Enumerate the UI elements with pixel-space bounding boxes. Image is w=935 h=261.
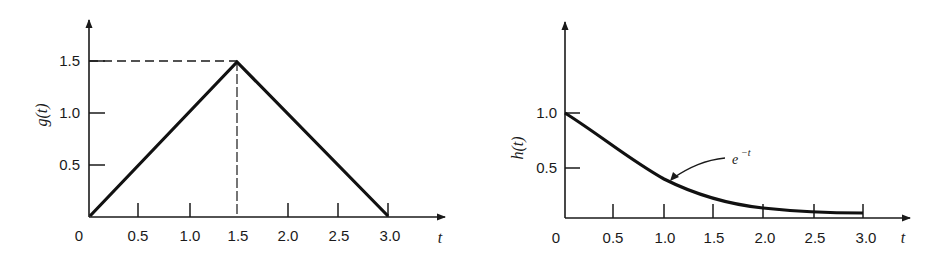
g-x-tick-label: 2.5 bbox=[329, 227, 350, 244]
h-x-tick-label: 3.0 bbox=[856, 229, 877, 246]
g-x-tick-label: 1.5 bbox=[228, 227, 249, 244]
h-y-tick-label: 0.5 bbox=[536, 159, 557, 176]
h-x-tick-label: 2.5 bbox=[805, 229, 826, 246]
arrowhead-icon bbox=[670, 172, 679, 181]
h-annotation-arrow bbox=[673, 158, 725, 178]
g-x-tick-label: 2.0 bbox=[278, 227, 299, 244]
g-triangle-curve bbox=[90, 62, 388, 216]
g-x-tick-label: 0.5 bbox=[128, 227, 149, 244]
h-x-tick-label: 1.0 bbox=[655, 229, 676, 246]
h-y-axis-label: h(t) bbox=[509, 136, 527, 159]
g-origin-label: 0 bbox=[75, 227, 83, 244]
h-curve-label: e bbox=[732, 152, 738, 167]
h-curve-label-exponent: −t bbox=[741, 147, 751, 158]
h-x-axis-label: t bbox=[901, 229, 906, 246]
g-x-axis-label: t bbox=[438, 229, 443, 246]
h-x-tick-label: 0.5 bbox=[603, 229, 624, 246]
g-y-tick-label: 1.5 bbox=[59, 52, 80, 69]
h-exponential-curve bbox=[565, 113, 863, 213]
g-y-axis-label: g(t) bbox=[33, 103, 51, 126]
chart-h: e −t 0.5 1.0 0 0.5 1.0 1.5 2.0 2.5 3.0 t… bbox=[509, 22, 910, 246]
figure: 0.5 1.0 1.5 0 0.5 1.0 1.5 2.0 2.5 3.0 t … bbox=[0, 0, 935, 261]
g-y-ticks bbox=[89, 61, 105, 165]
g-y-tick-label: 1.0 bbox=[59, 104, 80, 121]
h-y-tick-label: 1.0 bbox=[536, 104, 557, 121]
g-x-tick-label: 3.0 bbox=[380, 227, 401, 244]
h-x-tick-label: 2.0 bbox=[755, 229, 776, 246]
g-x-tick-label: 1.0 bbox=[180, 227, 201, 244]
chart-g: 0.5 1.0 1.5 0 0.5 1.0 1.5 2.0 2.5 3.0 t … bbox=[33, 20, 445, 246]
h-x-tick-label: 1.5 bbox=[704, 229, 725, 246]
g-x-ticks bbox=[138, 203, 388, 217]
h-origin-label: 0 bbox=[552, 229, 560, 246]
g-y-tick-label: 0.5 bbox=[59, 156, 80, 173]
